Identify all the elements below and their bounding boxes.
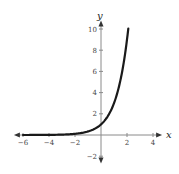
- x-axis-label: x: [166, 129, 172, 140]
- y-tick-label: 6: [93, 68, 98, 76]
- x-tick-label: −2: [70, 139, 80, 147]
- y-tick-label: −2: [87, 153, 97, 161]
- y-axis-arrow-up: [99, 21, 104, 27]
- x-tick-label: 4: [151, 139, 156, 147]
- exponential-graph: x y −6−4−224 −2246810: [0, 0, 179, 174]
- exponential-curve: [23, 29, 128, 135]
- y-tick-label: 2: [93, 110, 97, 118]
- y-tick-label: 4: [93, 89, 98, 97]
- y-axis-label: y: [96, 10, 103, 21]
- x-axis-arrow-right: [156, 133, 162, 138]
- x-tick-label: −6: [18, 139, 29, 147]
- x-tick-label: −4: [44, 139, 55, 147]
- y-tick-label: 10: [88, 26, 97, 34]
- y-tick-label: 8: [93, 47, 97, 55]
- x-tick-label: 2: [125, 139, 129, 147]
- x-axis-arrow-left: [14, 133, 20, 138]
- y-axis-arrow-down: [99, 158, 104, 164]
